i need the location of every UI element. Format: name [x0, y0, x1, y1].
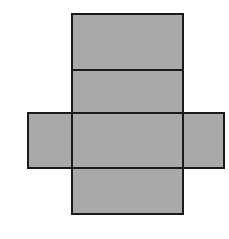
- panel-bottom-panel: [72, 168, 183, 214]
- panel-top-panel: [72, 14, 183, 70]
- panel-right-flap-panel: [183, 113, 224, 168]
- panel-center-panel: [72, 113, 183, 168]
- figure-container: A: [0, 0, 229, 239]
- panel-upper-middle-panel: [72, 70, 183, 113]
- panel-left-flap-panel: [28, 113, 72, 168]
- geometric-net-diagram: [0, 0, 229, 239]
